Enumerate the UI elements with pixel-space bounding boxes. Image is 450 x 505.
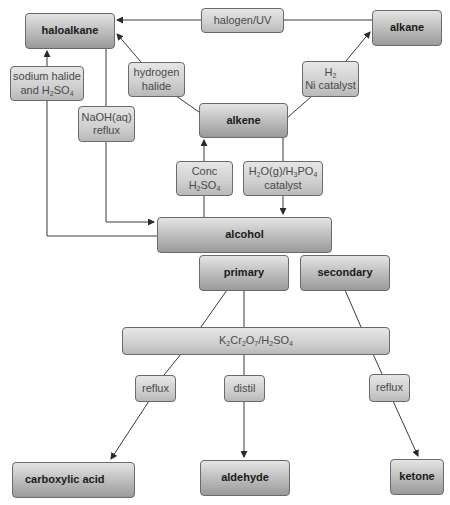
node-primary: primary <box>199 255 289 291</box>
reagent-line2: reflux <box>93 124 120 137</box>
node-label: primary <box>224 266 264 279</box>
reagent-label: reflux <box>142 382 169 395</box>
reagent-label: K2Cr2O7/H2SO4 <box>219 334 293 347</box>
reagent-line1: hydrogen <box>134 66 180 79</box>
reagent-line2: Ni catalyst <box>305 79 356 92</box>
node-ketone: ketone <box>390 459 444 495</box>
reagent-label: distil <box>233 382 255 395</box>
node-alkene: alkene <box>199 103 288 138</box>
reagent-line1: H2O(g)/H3PO4 <box>249 165 318 178</box>
reagent-halogen-uv: halogen/UV <box>201 8 284 33</box>
reagent-line1: sodium halide <box>13 70 81 83</box>
reagent-sodium-halide: sodium halide and H2SO4 <box>10 66 84 101</box>
reagent-conc-h2so4: Conc H2SO4 <box>176 161 233 196</box>
reagent-label: reflux <box>376 381 403 394</box>
node-aldehyde: aldehyde <box>200 460 290 496</box>
node-carboxylic-acid: carboxylic acid <box>12 462 135 498</box>
node-label: carboxylic acid <box>25 473 105 486</box>
node-secondary: secondary <box>300 255 390 291</box>
reagent-dichromate: K2Cr2O7/H2SO4 <box>122 327 390 355</box>
node-alkane: alkane <box>372 10 442 46</box>
node-label: alkene <box>226 114 260 127</box>
reagent-hydrogen-halide: hydrogen halide <box>128 62 185 97</box>
reagent-line1: Conc <box>192 165 218 178</box>
reagent-steam-h3po4: H2O(g)/H3PO4 catalyst <box>243 161 323 196</box>
node-label: aldehyde <box>221 471 269 484</box>
node-haloalkane: haloalkane <box>25 13 115 49</box>
reagent-line1: H2 <box>325 66 337 79</box>
reagent-line2: catalyst <box>264 179 301 192</box>
reagent-label: halogen/UV <box>214 14 272 27</box>
reagent-distil: distil <box>224 375 265 402</box>
node-label: alcohol <box>225 228 264 241</box>
node-label: secondary <box>317 266 372 279</box>
reagent-line2: halide <box>142 80 171 93</box>
reagent-reflux-left: reflux <box>135 375 176 402</box>
node-label: alkane <box>390 21 424 34</box>
reagent-reflux-right: reflux <box>369 374 410 402</box>
reagent-line2: H2SO4 <box>189 179 221 192</box>
node-label: haloalkane <box>42 24 99 37</box>
reagent-line2: and H2SO4 <box>20 84 73 97</box>
node-label: ketone <box>399 470 434 483</box>
reagent-h2-ni-catalyst: H2 Ni catalyst <box>302 61 359 97</box>
node-alcohol: alcohol <box>157 217 332 253</box>
reagent-naoh-reflux: NaOH(aq) reflux <box>78 106 135 142</box>
reagent-line1: NaOH(aq) <box>81 111 131 124</box>
